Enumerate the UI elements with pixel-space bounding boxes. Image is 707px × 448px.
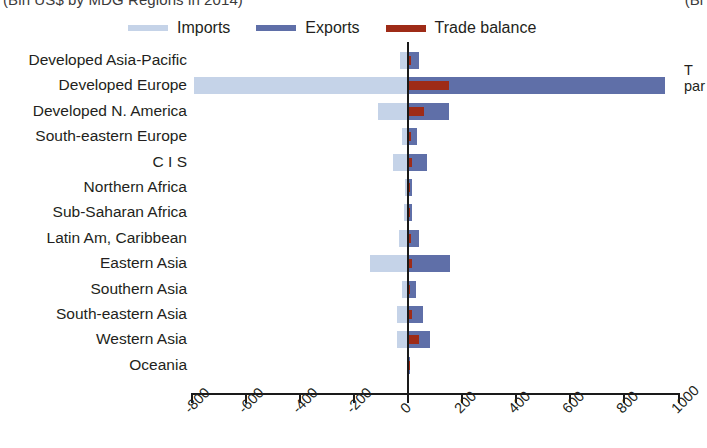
legend-item-trade-balance[interactable]: Trade balance — [386, 19, 537, 37]
right-note-line-2: par — [684, 78, 705, 94]
category-label: Developed N. America — [0, 101, 187, 121]
x-axis: -800-600-400-20002004006008001000 — [0, 393, 707, 448]
chart-figure: (Bln US$ by MDG Regions in 2014) (Bl Imp… — [0, 0, 707, 448]
chart-row: Northern Africa — [0, 175, 707, 200]
legend-label: Imports — [177, 19, 230, 37]
bar-imports — [393, 154, 408, 171]
chart-row: Western Asia — [0, 327, 707, 352]
category-label: South-eastern Europe — [0, 126, 187, 146]
chart-row: C I S — [0, 150, 707, 175]
right-side-annotation: T par — [684, 62, 705, 94]
bar-imports — [194, 77, 408, 94]
bar-exports — [408, 255, 450, 272]
chart-row: Developed N. America — [0, 99, 707, 124]
chart-row: Developed Europe — [0, 73, 707, 98]
category-label: Eastern Asia — [0, 253, 187, 273]
axis-tick-label: 0 — [397, 399, 414, 416]
bar-trade-balance — [408, 81, 449, 90]
chart-row: Developed Asia-Pacific — [0, 48, 707, 73]
chart-row: South-eastern Europe — [0, 124, 707, 149]
category-label: Western Asia — [0, 329, 187, 349]
legend-item-imports[interactable]: Imports — [128, 19, 230, 37]
category-label: Southern Asia — [0, 279, 187, 299]
category-label: Developed Europe — [0, 75, 187, 95]
chart-row: South-eastern Asia — [0, 302, 707, 327]
category-label: C I S — [0, 152, 187, 172]
legend-label: Trade balance — [435, 19, 537, 37]
chart-row: Latin Am, Caribbean — [0, 226, 707, 251]
legend-item-exports[interactable]: Exports — [256, 19, 359, 37]
category-label: South-eastern Asia — [0, 304, 187, 324]
category-label: Latin Am, Caribbean — [0, 228, 187, 248]
bar-rows: Developed Asia-PacificDeveloped EuropeDe… — [0, 48, 707, 378]
chart-row: Oceania — [0, 353, 707, 378]
legend-label: Exports — [305, 19, 359, 37]
chart-row: Eastern Asia — [0, 251, 707, 276]
chart-title: (Bln US$ by MDG Regions in 2014) — [3, 0, 243, 8]
bar-trade-balance — [408, 335, 419, 344]
legend-line-exports — [256, 25, 296, 31]
plot-area: Developed Asia-PacificDeveloped EuropeDe… — [0, 48, 707, 393]
legend-line-trade-balance — [386, 25, 426, 32]
chart-title-right-clipped: (Bl — [685, 0, 703, 8]
category-label: Northern Africa — [0, 177, 187, 197]
category-label: Sub-Saharan Africa — [0, 202, 187, 222]
category-label: Developed Asia-Pacific — [0, 50, 187, 70]
bar-imports — [370, 255, 408, 272]
chart-row: Southern Asia — [0, 277, 707, 302]
bar-imports — [378, 103, 408, 120]
category-label: Oceania — [0, 355, 187, 375]
chart-legend: ImportsExportsTrade balance — [128, 17, 536, 39]
zero-axis-line — [407, 42, 409, 394]
right-note-line-1: T — [684, 62, 705, 78]
chart-row: Sub-Saharan Africa — [0, 200, 707, 225]
legend-line-imports — [128, 25, 168, 31]
bar-trade-balance — [408, 107, 424, 116]
axis-tick — [407, 393, 409, 403]
